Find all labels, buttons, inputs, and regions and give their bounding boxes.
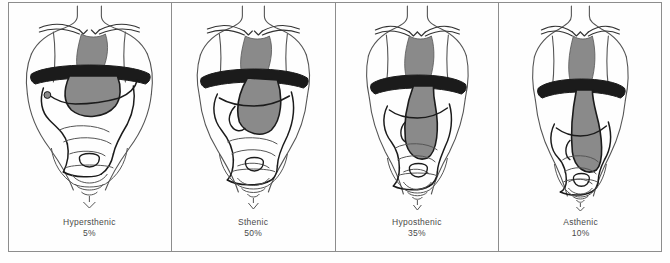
heart-shadow-hypersthenic — [77, 34, 108, 68]
pelvis-asthenic — [555, 164, 607, 211]
heart-shadow-sthenic — [240, 36, 271, 72]
panel-asthenic: Asthenic 10% — [498, 2, 662, 252]
panel-row: Hypersthenic 5% — [8, 2, 662, 252]
clavicles-asthenic — [542, 26, 620, 36]
small-intestine-sthenic — [227, 138, 277, 168]
heart-shadow-hyposthenic — [404, 36, 433, 78]
caption-hyposthenic: Hyposthenic 35% — [336, 214, 499, 252]
panel-hyposthenic: Hyposthenic 35% — [335, 2, 499, 252]
clavicles-sthenic — [207, 25, 299, 35]
label-sthenic: Sthenic — [238, 217, 268, 227]
percent-hyposthenic: 35% — [336, 228, 499, 239]
stomach-shadow-asthenic — [572, 90, 602, 172]
caption-hypersthenic: Hypersthenic 5% — [8, 214, 171, 252]
pelvis-hypersthenic — [51, 148, 127, 208]
small-intestine-hypersthenic — [59, 126, 111, 156]
caption-asthenic: Asthenic 10% — [499, 214, 662, 252]
stomach-shadow-hyposthenic — [404, 86, 436, 159]
gallbladder-hypersthenic — [44, 92, 51, 99]
panel-sthenic: Sthenic 50% — [171, 2, 335, 252]
heart-shadow-asthenic — [569, 36, 595, 82]
label-hypersthenic: Hypersthenic — [63, 217, 116, 227]
bladder-hyposthenic — [409, 164, 427, 178]
caption-sthenic: Sthenic 50% — [172, 214, 335, 252]
illustration-hyposthenic — [336, 2, 499, 214]
percent-sthenic: 50% — [172, 228, 335, 239]
illustration-asthenic — [499, 2, 662, 214]
label-hyposthenic: Hyposthenic — [392, 217, 442, 227]
body-habitus-figure: Hypersthenic 5% — [0, 0, 670, 263]
illustration-hypersthenic — [8, 2, 171, 214]
illustration-sthenic — [172, 2, 335, 214]
percent-asthenic: 10% — [499, 228, 662, 239]
percent-hypersthenic: 5% — [8, 228, 171, 239]
clavicles-hyposthenic — [375, 26, 459, 36]
panel-hypersthenic: Hypersthenic 5% — [8, 2, 171, 252]
stomach-shadow-hypersthenic — [65, 76, 120, 116]
label-asthenic: Asthenic — [563, 217, 598, 227]
